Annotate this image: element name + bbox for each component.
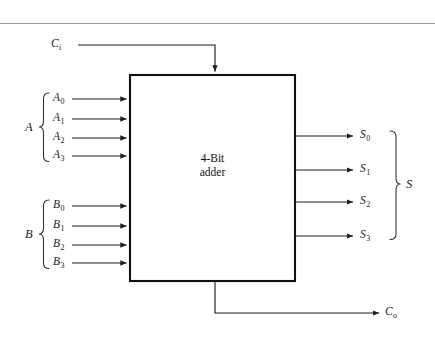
label-carry-out: Co — [385, 306, 397, 318]
label-group-b: B — [25, 228, 33, 241]
label-s3: S3 — [360, 229, 370, 241]
carry-in-wire — [78, 45, 215, 72]
label-carry-in: Ci — [51, 38, 61, 50]
label-s0: S0 — [360, 129, 370, 141]
adder-block-diagram: Ci Co A A0 A1 A2 A3 B B0 B1 B2 B3 S0 S1 … — [0, 0, 435, 338]
adder-block-caption-line2: adder — [130, 166, 295, 180]
label-a2: A2 — [53, 131, 64, 143]
label-b0: B0 — [53, 199, 64, 211]
brace-group-b — [39, 200, 49, 269]
carry-out-wire — [215, 281, 379, 313]
label-s2: S2 — [360, 195, 370, 207]
label-s1: S1 — [360, 163, 370, 175]
scan-bleed-artifact-right — [160, 322, 164, 338]
label-b1: B1 — [53, 219, 64, 231]
adder-block-caption: 4-Bit adder — [130, 152, 295, 179]
label-b3: B3 — [53, 256, 64, 268]
label-a0: A0 — [53, 92, 64, 104]
label-a3: A3 — [53, 149, 64, 161]
brace-group-s — [390, 131, 401, 240]
scan-bleed-artifact-left — [8, 316, 12, 332]
label-a1: A1 — [53, 112, 64, 124]
brace-group-a — [39, 93, 49, 162]
label-b2: B2 — [53, 238, 64, 250]
adder-block-caption-line1: 4-Bit — [130, 152, 295, 166]
label-group-s: S — [406, 178, 412, 191]
label-group-a: A — [25, 121, 33, 134]
